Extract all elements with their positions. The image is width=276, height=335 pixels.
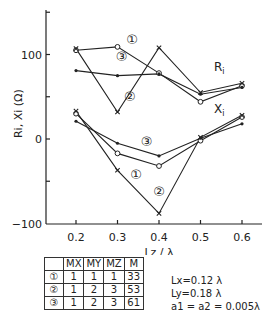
table-header-cell: MY xyxy=(84,258,104,271)
table-row: ③ 1 2 3 61 xyxy=(45,297,144,310)
y-tick-label: 0 xyxy=(35,133,42,146)
x-tick-label: 0.2 xyxy=(67,231,85,244)
dot-marker xyxy=(199,137,202,140)
table-cell: 1 xyxy=(64,284,84,297)
x-tick-label: 0.5 xyxy=(192,231,210,244)
dot-marker xyxy=(116,142,119,145)
table-cell: 2 xyxy=(84,284,104,297)
dot-marker xyxy=(74,120,77,123)
x-marker xyxy=(115,110,119,114)
table-cell: 61 xyxy=(124,297,143,310)
dot-marker xyxy=(199,93,202,96)
table-row: ① 1 1 1 33 xyxy=(45,271,144,284)
x-tick-label: 0.3 xyxy=(109,231,127,244)
series-line-x1 xyxy=(76,114,242,166)
dot-marker xyxy=(157,72,160,75)
table-cell: 53 xyxy=(124,284,143,297)
param-lx: Lx=0.12 λ xyxy=(171,274,260,287)
dot-marker xyxy=(74,69,77,72)
annotation-label: ① xyxy=(130,167,142,182)
table-header-cell xyxy=(45,258,64,271)
y-tick-label: −100 xyxy=(12,218,42,231)
x-marker xyxy=(115,168,119,172)
table-cell: 1 xyxy=(64,271,84,284)
table-header-cell: M xyxy=(124,258,143,271)
param-a: a1 = a2 = 0.005λ xyxy=(171,300,260,313)
impedance-chart: 1000−1000.20.30.40.50.6Lz / λRi, Xi (Ω) … xyxy=(0,0,276,255)
table-header-row: MX MY MZ M xyxy=(45,258,144,271)
table-header-cell: MX xyxy=(64,258,84,271)
annotation-label: ① xyxy=(126,32,138,47)
table-cell: 1 xyxy=(64,297,84,310)
x-tick-label: 0.4 xyxy=(150,231,168,244)
annotation-label: ② xyxy=(124,89,136,104)
table-cell: 33 xyxy=(124,271,143,284)
table-header-cell: MZ xyxy=(104,258,124,271)
table-cell: 1 xyxy=(104,271,124,284)
table-cell: 2 xyxy=(84,297,104,310)
x-marker xyxy=(157,211,161,215)
circle-marker xyxy=(74,111,79,116)
dot-marker xyxy=(157,154,160,157)
table-cell: ① xyxy=(45,271,64,284)
mode-table: MX MY MZ M ① 1 1 1 33 ② 1 2 3 53 ③ 1 2 3… xyxy=(44,257,144,310)
dot-marker xyxy=(240,122,243,125)
dot-marker xyxy=(240,86,243,89)
table-cell: 1 xyxy=(84,271,104,284)
annotation-label: ② xyxy=(153,184,165,199)
table-cell: ② xyxy=(45,284,64,297)
y-tick-label: 100 xyxy=(21,49,42,62)
circle-marker xyxy=(157,164,162,169)
circle-marker xyxy=(115,151,120,156)
param-ly: Ly=0.18 λ xyxy=(171,287,260,300)
x-axis-label: Lz / λ xyxy=(144,246,174,255)
series-line-x3 xyxy=(76,121,242,156)
y-axis-label: Ri, Xi (Ω) xyxy=(12,89,25,138)
annotation-label: Xi xyxy=(214,102,224,118)
table-cell: 3 xyxy=(104,297,124,310)
table-row: ② 1 2 3 53 xyxy=(45,284,144,297)
annotation-label: ③ xyxy=(141,134,153,149)
dot-marker xyxy=(116,74,119,77)
table-cell: 3 xyxy=(104,284,124,297)
circle-marker xyxy=(198,99,203,104)
parameter-list: Lx=0.12 λ Ly=0.18 λ a1 = a2 = 0.005λ xyxy=(171,274,260,313)
table-cell: ③ xyxy=(45,297,64,310)
x-tick-label: 0.6 xyxy=(233,231,251,244)
x-marker xyxy=(157,46,161,50)
annotation-label: Ri xyxy=(214,60,225,76)
annotation-label: ③ xyxy=(116,49,128,64)
